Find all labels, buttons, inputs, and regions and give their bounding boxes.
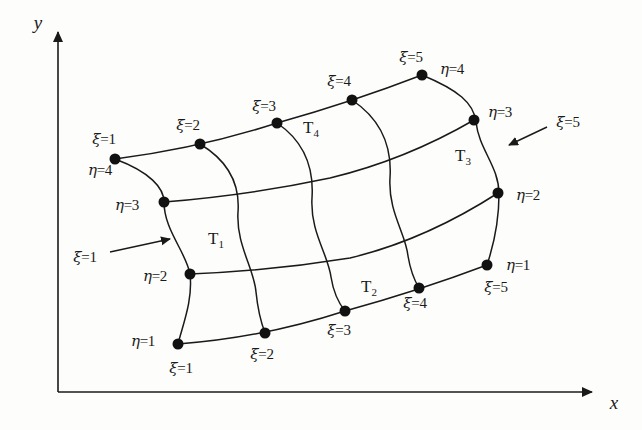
mesh-node bbox=[260, 328, 271, 339]
element-name: T bbox=[208, 229, 218, 248]
label-value: =4 bbox=[411, 295, 426, 311]
eta-curve-4 bbox=[115, 75, 422, 159]
mesh-node bbox=[159, 197, 170, 208]
greek-symbol: η bbox=[131, 332, 140, 350]
annotation-label-xi1: ξ=1 bbox=[73, 250, 96, 265]
element-index: 3 bbox=[465, 155, 471, 167]
greek-symbol: η bbox=[488, 103, 497, 121]
node-label-xi-1-top: ξ=1 bbox=[92, 132, 115, 147]
element-label-t3: T3 bbox=[455, 147, 471, 167]
x-axis-label: x bbox=[610, 393, 618, 412]
label-value: =2 bbox=[258, 346, 273, 362]
element-name: T bbox=[455, 146, 465, 165]
element-name: T bbox=[303, 118, 313, 137]
y-axis-label: y bbox=[34, 13, 42, 32]
node-label-eta-4-left: η=4 bbox=[88, 163, 112, 178]
label-value: =1 bbox=[177, 360, 192, 376]
greek-symbol: η bbox=[88, 161, 97, 179]
mesh-nodes-group bbox=[110, 70, 504, 350]
annotation-arrows-group bbox=[110, 127, 547, 252]
greek-symbol: ξ bbox=[484, 278, 492, 296]
greek-symbol: ξ bbox=[176, 116, 184, 134]
node-label-eta-2-left: η=2 bbox=[143, 269, 167, 284]
mesh-figure: y x T1 T2 T3 T4 ξ=1 ξ=5 ξ=1 ξ=2 ξ=3 ξ=4 … bbox=[0, 0, 642, 430]
node-label-xi-5-bottom: ξ=5 bbox=[484, 280, 507, 295]
annotation-arrow-xi5 bbox=[509, 127, 547, 145]
xi-curve-4 bbox=[352, 100, 419, 288]
label-value: =2 bbox=[184, 117, 199, 133]
greek-symbol: η bbox=[115, 196, 124, 214]
label-value: =5 bbox=[492, 279, 507, 295]
mesh-node bbox=[493, 188, 504, 199]
node-label-xi-5-top: ξ=5 bbox=[399, 50, 422, 65]
element-label-t4: T4 bbox=[303, 119, 319, 139]
greek-symbol: ξ bbox=[92, 130, 100, 148]
node-label-xi-1-bottom: ξ=1 bbox=[169, 361, 192, 376]
mesh-node bbox=[195, 139, 206, 150]
element-index: 4 bbox=[313, 127, 319, 139]
node-label-xi-3-bottom: ξ=3 bbox=[327, 323, 350, 338]
label-value: =4 bbox=[335, 73, 350, 89]
mesh-node bbox=[469, 115, 480, 126]
mesh-node bbox=[414, 283, 425, 294]
annotation-label-xi5: ξ=5 bbox=[556, 115, 579, 130]
node-label-eta-3-left: η=3 bbox=[115, 198, 139, 213]
greek-symbol: η bbox=[516, 186, 525, 204]
node-label-eta-3-right: η=3 bbox=[488, 105, 512, 120]
greek-symbol: η bbox=[143, 267, 152, 285]
mesh-node bbox=[185, 269, 196, 280]
element-label-t1: T1 bbox=[208, 230, 224, 250]
mesh-node bbox=[417, 70, 428, 81]
node-label-xi-2-top: ξ=2 bbox=[176, 118, 199, 133]
xi-value: =5 bbox=[564, 114, 579, 130]
greek-symbol: ξ bbox=[403, 294, 411, 312]
greek-symbol: ξ bbox=[169, 359, 177, 377]
node-label-eta-1-right: η=1 bbox=[506, 258, 530, 273]
mesh-node bbox=[272, 118, 283, 129]
element-index: 2 bbox=[371, 286, 377, 298]
label-value: =2 bbox=[525, 187, 540, 203]
mesh-canvas bbox=[0, 0, 642, 430]
element-name: T bbox=[361, 277, 371, 296]
xi-symbol: ξ bbox=[556, 113, 564, 131]
mesh-node bbox=[347, 95, 358, 106]
label-value: =1 bbox=[140, 333, 155, 349]
node-label-eta-2-right: η=2 bbox=[516, 188, 540, 203]
label-value: =3 bbox=[124, 197, 139, 213]
mesh-node bbox=[173, 339, 184, 350]
label-value: =5 bbox=[407, 49, 422, 65]
greek-symbol: η bbox=[506, 256, 515, 274]
greek-symbol: ξ bbox=[250, 345, 258, 363]
node-label-xi-4-bottom: ξ=4 bbox=[403, 296, 426, 311]
node-label-xi-2-bottom: ξ=2 bbox=[250, 347, 273, 362]
greek-symbol: ξ bbox=[399, 48, 407, 66]
eta-curves-group bbox=[115, 75, 498, 344]
eta-curve-2 bbox=[190, 193, 498, 274]
label-value: =4 bbox=[97, 162, 112, 178]
element-index: 1 bbox=[218, 238, 224, 250]
node-label-xi-3-top: ξ=3 bbox=[252, 99, 275, 114]
label-value: =4 bbox=[449, 61, 464, 77]
node-label-xi-4-top: ξ=4 bbox=[327, 74, 350, 89]
mesh-node bbox=[340, 306, 351, 317]
element-label-t2: T2 bbox=[361, 278, 377, 298]
node-label-eta-4-right: η=4 bbox=[440, 62, 464, 77]
label-value: =1 bbox=[515, 257, 530, 273]
annotation-arrow-xi1 bbox=[110, 239, 170, 252]
greek-symbol: ξ bbox=[327, 72, 335, 90]
xi-symbol: ξ bbox=[73, 248, 81, 266]
label-value: =3 bbox=[497, 104, 512, 120]
xi-curve-1 bbox=[115, 159, 191, 344]
greek-symbol: ξ bbox=[327, 321, 335, 339]
greek-symbol: ξ bbox=[252, 97, 260, 115]
mesh-node bbox=[482, 260, 493, 271]
label-value: =3 bbox=[335, 322, 350, 338]
xi-curves-group bbox=[115, 75, 499, 344]
xi-curve-3 bbox=[277, 123, 345, 311]
node-label-eta-1-left: η=1 bbox=[131, 334, 155, 349]
label-value: =3 bbox=[260, 98, 275, 114]
label-value: =1 bbox=[100, 131, 115, 147]
greek-symbol: η bbox=[440, 60, 449, 78]
xi-value: =1 bbox=[81, 249, 96, 265]
label-value: =2 bbox=[152, 268, 167, 284]
